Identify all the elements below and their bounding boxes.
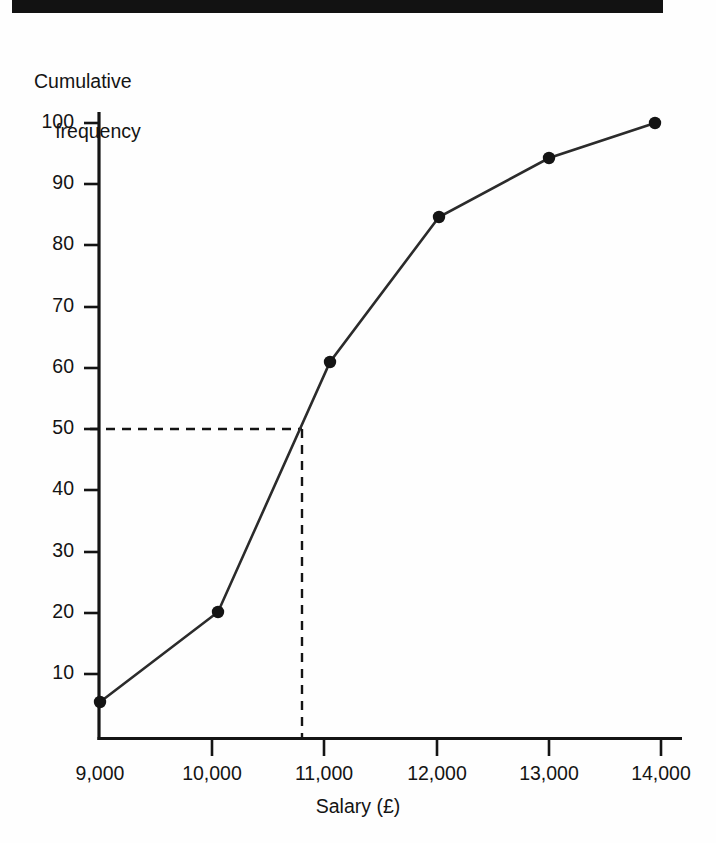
data-point — [94, 696, 106, 708]
y-tick-label: 10 — [14, 661, 74, 684]
x-tick-marks — [212, 738, 661, 756]
y-tick-label: 90 — [14, 171, 74, 194]
data-point — [324, 356, 336, 368]
data-point — [433, 211, 445, 223]
y-tick-label: 30 — [14, 539, 74, 562]
y-tick-label: 40 — [14, 477, 74, 500]
y-tick-label: 80 — [14, 232, 74, 255]
x-tick-label: 10,000 — [157, 762, 267, 785]
y-tick-label: 70 — [14, 294, 74, 317]
y-tick-label: 100 — [14, 110, 74, 133]
data-point — [212, 606, 224, 618]
data-point — [649, 117, 661, 129]
data-point-markers — [94, 117, 661, 708]
figure-page: Cumulative frequency — [0, 0, 716, 843]
y-tick-marks — [84, 123, 99, 674]
y-tick-label: 50 — [14, 416, 74, 439]
x-tick-label: 12,000 — [382, 762, 492, 785]
y-tick-label: 60 — [14, 355, 74, 378]
y-tick-label: 20 — [14, 600, 74, 623]
x-tick-label: 13,000 — [494, 762, 604, 785]
x-axis-title: Salary (£) — [0, 795, 716, 818]
cumulative-frequency-line — [100, 123, 655, 702]
data-point — [543, 152, 555, 164]
x-tick-label: 9,000 — [45, 762, 155, 785]
cumulative-frequency-chart — [0, 0, 716, 843]
median-guide-lines — [90, 429, 302, 738]
x-tick-label: 14,000 — [606, 762, 716, 785]
x-tick-label: 11,000 — [269, 762, 379, 785]
